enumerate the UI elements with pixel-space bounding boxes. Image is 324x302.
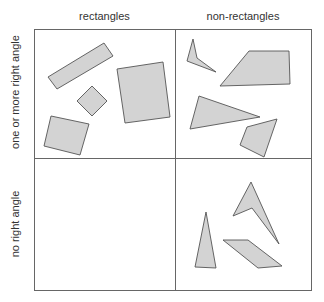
square-shape <box>44 116 89 155</box>
quadrilateral-shape <box>240 119 277 157</box>
dart-shape <box>233 182 279 244</box>
arrowhead-shape <box>187 39 216 72</box>
rectangle-shape-large <box>117 62 170 123</box>
triangle-shape <box>190 96 260 129</box>
square-shape-small <box>77 86 107 116</box>
rectangle-shape <box>48 43 113 89</box>
trapezoid-shape <box>220 51 290 86</box>
parallelogram-shape <box>223 240 282 268</box>
venn-grid-diagram <box>0 0 324 302</box>
narrow-triangle-shape <box>195 212 216 268</box>
